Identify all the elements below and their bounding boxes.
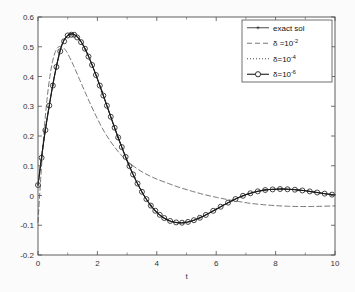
ytick-label: 0.4 xyxy=(23,73,35,82)
ytick-label: -0.1 xyxy=(20,221,34,230)
ytick-label: 0.2 xyxy=(23,132,35,141)
legend-label-exponent: -4 xyxy=(291,54,296,60)
ytick-label: -0.2 xyxy=(20,251,34,260)
legend: exact solδ =10-2δ=10-4δ=10-6 xyxy=(242,20,332,82)
xtick-label: 4 xyxy=(155,259,160,268)
xtick-label: 6 xyxy=(214,259,219,268)
legend-marker-circle xyxy=(255,72,260,77)
plot-svg: 0246810-0.2-0.100.10.20.30.40.50.6texact… xyxy=(0,0,355,292)
legend-label-0: exact sol xyxy=(273,24,305,33)
ytick-label: 0.5 xyxy=(23,43,35,52)
x-axis-label: t xyxy=(185,272,188,281)
ytick-label: 0 xyxy=(30,192,35,201)
xtick-label: 2 xyxy=(95,259,100,268)
xtick-label: 10 xyxy=(331,259,340,268)
legend-label-exponent: -6 xyxy=(291,69,296,75)
ytick-label: 0.1 xyxy=(23,162,35,171)
xtick-label: 8 xyxy=(273,259,278,268)
legend-label-exponent: -2 xyxy=(293,38,298,44)
xtick-label: 0 xyxy=(36,259,41,268)
ytick-label: 0.6 xyxy=(23,13,35,22)
figure-canvas: 0246810-0.2-0.100.10.20.30.40.50.6texact… xyxy=(0,0,355,292)
ytick-label: 0.3 xyxy=(23,102,35,111)
